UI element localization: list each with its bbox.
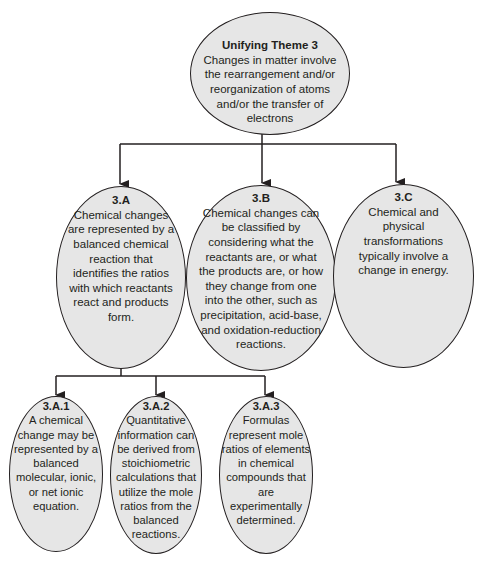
node-title: 3.C (395, 191, 413, 205)
node-text: Quantitative information can be derived … (111, 413, 201, 541)
node-text: Changes in matter involve the rearrangem… (195, 53, 345, 126)
node-title: 3.A.3 (253, 400, 280, 413)
node-3a1: 3.A.1 A chemical change may be represent… (9, 396, 103, 552)
node-text: Chemical changes can be classified by co… (197, 206, 325, 352)
node-3a3: 3.A.3 Formulas represent mole ratios of … (219, 396, 313, 554)
node-text: A chemical change may be represented by … (12, 413, 100, 513)
node-text: Formulas represent mole ratios of elemen… (221, 413, 311, 527)
node-title: Unifying Theme 3 (222, 39, 318, 53)
node-3b: 3.B Chemical changes can be classified b… (186, 185, 336, 371)
node-title: 3.A.2 (143, 400, 170, 413)
node-unifying-theme-3: Unifying Theme 3 Changes in matter invol… (190, 12, 350, 135)
node-text: Chemical changes are represented by a ba… (67, 208, 175, 325)
node-3a: 3.A Chemical changes are represented by … (56, 186, 186, 369)
node-3c: 3.C Chemical and physical transformation… (333, 184, 474, 368)
node-text: Chemical and physical transformations ty… (354, 205, 454, 278)
node-title: 3.B (252, 192, 270, 206)
node-3a2: 3.A.2 Quantitative information can be de… (110, 396, 202, 554)
node-title: 3.A (112, 194, 130, 208)
node-title: 3.A.1 (43, 400, 70, 413)
